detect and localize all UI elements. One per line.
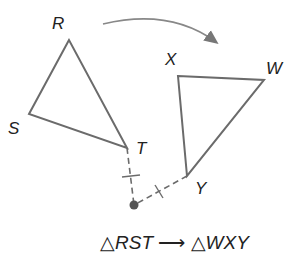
vertex-label-y: Y — [195, 180, 206, 197]
triangle-rst — [29, 40, 127, 148]
caption: △RST ⟶ △WXY — [100, 233, 249, 252]
tick-mark-t — [122, 175, 140, 177]
diagram-canvas — [0, 0, 301, 256]
vertex-label-r: R — [52, 15, 64, 32]
caption-from: RST — [115, 232, 153, 253]
vertex-label-w: W — [266, 60, 282, 77]
triangle-wxy — [178, 76, 264, 176]
triangle-symbol: △ — [100, 232, 115, 253]
vertex-label-s: S — [8, 120, 19, 137]
triangle-symbol-2: △ — [191, 232, 206, 253]
rotation-diagram: R S T X W Y △RST ⟶ △WXY — [0, 0, 301, 256]
dashed-segment-y — [134, 176, 187, 205]
tick-mark-y — [155, 185, 163, 198]
vertex-label-t: T — [136, 140, 146, 157]
rotation-arrow — [103, 19, 216, 42]
center-point — [130, 201, 139, 210]
vertex-label-x: X — [165, 51, 176, 68]
caption-to: WXY — [206, 232, 249, 253]
caption-arrow: ⟶ — [158, 232, 185, 253]
